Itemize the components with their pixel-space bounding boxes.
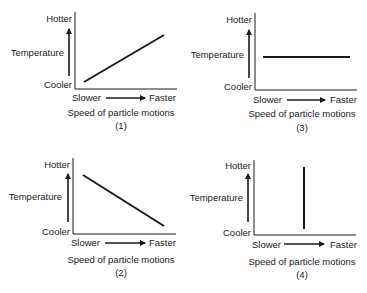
x-low-label: Slower [72,92,101,103]
graph-3: Hotter Temperature Cooler Slower Faster … [191,13,357,133]
x-low-label: Slower [71,237,100,248]
y-high-label: Hotter [225,160,251,171]
axes [73,158,176,234]
x-axis-label: Speed of particle motions [67,107,174,118]
y-low-label: Cooler [44,79,72,90]
x-axis-label: Speed of particle motions [248,108,355,119]
x-axis-label: Speed of particle motions [67,254,174,265]
diagram-canvas: Hotter Temperature Cooler Slower Faster … [0,0,367,293]
graph-2: Hotter Temperature Cooler Slower Faster … [9,158,176,278]
graph-caption: (4) [296,269,308,280]
graph-caption: (3) [296,122,308,133]
graph-4: Hotter Temperature Cooler Slower Faster … [190,160,357,280]
y-high-label: Hotter [46,13,72,24]
x-high-label: Faster [149,92,176,103]
graph-1: Hotter Temperature Cooler Slower Faster … [11,12,177,131]
y-high-label: Hotter [44,159,70,170]
x-high-label: Faster [330,94,357,105]
x-high-label: Faster [149,237,176,248]
plot-line-decreasing [83,175,164,226]
y-axis-label: Temperature [9,191,62,202]
y-low-label: Cooler [223,227,251,238]
x-high-label: Faster [330,239,357,250]
y-axis-label: Temperature [11,47,64,58]
y-high-label: Hotter [226,14,252,25]
y-low-label: Cooler [42,226,70,237]
y-low-label: Cooler [224,81,252,92]
graph-caption: (1) [115,120,127,131]
x-axis-label: Speed of particle motions [248,256,355,267]
graph-caption: (2) [115,267,127,278]
axes [255,13,357,90]
y-axis-label: Temperature [190,192,243,203]
x-low-label: Slower [252,239,281,250]
plot-line-increasing [84,35,164,82]
x-low-label: Slower [253,94,282,105]
y-axis-label: Temperature [191,49,244,60]
